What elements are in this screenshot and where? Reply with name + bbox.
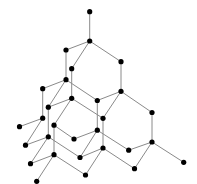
bond-edge	[152, 142, 184, 162]
atom-node	[34, 179, 39, 184]
atom-node	[63, 77, 68, 82]
bond-edge	[37, 155, 54, 182]
atom-node	[149, 110, 154, 115]
atom-node	[126, 148, 131, 153]
bond-edge	[129, 142, 152, 150]
atom-node	[46, 134, 51, 139]
atom-node	[87, 38, 92, 43]
atom-node	[71, 136, 76, 141]
atom-node	[40, 116, 45, 121]
atom-node	[63, 47, 68, 52]
bond-edge	[43, 80, 66, 89]
atom-node	[100, 116, 105, 121]
bond-edge	[74, 130, 97, 139]
atom-node	[118, 89, 123, 94]
bond-edge	[54, 125, 74, 139]
atom-node	[77, 155, 82, 160]
atom-node	[51, 152, 56, 157]
bond-edge	[121, 91, 152, 112]
atom-node	[87, 9, 92, 14]
atom-node	[46, 105, 51, 110]
bond-edge	[54, 98, 72, 125]
atom-node	[40, 86, 45, 91]
atom-node	[69, 96, 74, 101]
lattice-diagram	[0, 0, 197, 184]
bond-edge	[20, 118, 43, 127]
atom-node	[132, 166, 137, 171]
atom-node	[95, 128, 100, 133]
atom-node	[181, 160, 186, 165]
atom-node	[95, 98, 100, 103]
bond-edge	[103, 91, 121, 118]
bond-edge	[48, 80, 66, 108]
bond-edge	[135, 142, 153, 169]
atom-node	[83, 172, 88, 177]
atom-node	[100, 145, 105, 150]
bond-edge	[66, 41, 90, 50]
bond-edge	[26, 118, 43, 145]
bond-edges	[20, 12, 184, 182]
atom-node	[149, 139, 154, 144]
atom-node	[17, 124, 22, 129]
atom-node	[51, 123, 56, 128]
atom-node	[28, 161, 33, 166]
bond-edge	[90, 41, 121, 62]
bond-edge	[26, 137, 49, 145]
bond-edge	[72, 41, 90, 69]
atom-node	[23, 143, 28, 148]
atom-node	[118, 59, 123, 64]
bond-edge	[31, 137, 49, 164]
atom-node	[69, 66, 74, 71]
